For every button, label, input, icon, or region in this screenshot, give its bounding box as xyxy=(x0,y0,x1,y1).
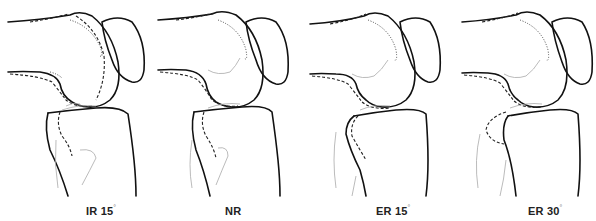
knee-drawing-er15 xyxy=(296,0,444,221)
knee-drawing-ir15 xyxy=(0,0,148,221)
panel-nr: NR xyxy=(148,0,296,221)
panel-label-ir15: IR 15° xyxy=(86,205,116,217)
panel-label-er30: ER 30° xyxy=(528,205,563,217)
label-text: ER 15 xyxy=(376,205,408,217)
knee-rotation-figure: IR 15° NR xyxy=(0,0,596,221)
panel-er15: ER 15° xyxy=(296,0,444,221)
panel-ir15: IR 15° xyxy=(0,0,148,221)
label-text: IR 15 xyxy=(86,205,113,217)
panel-label-nr: NR xyxy=(225,205,241,217)
knee-drawing-nr xyxy=(148,0,296,221)
knee-drawing-er30 xyxy=(446,0,596,221)
panel-label-er15: ER 15° xyxy=(376,205,411,217)
degree-symbol: ° xyxy=(113,204,116,211)
label-text: ER 30 xyxy=(528,205,560,217)
degree-symbol: ° xyxy=(560,204,563,211)
degree-symbol: ° xyxy=(408,204,411,211)
panel-er30: ER 30° xyxy=(446,0,596,221)
label-text: NR xyxy=(225,205,241,217)
